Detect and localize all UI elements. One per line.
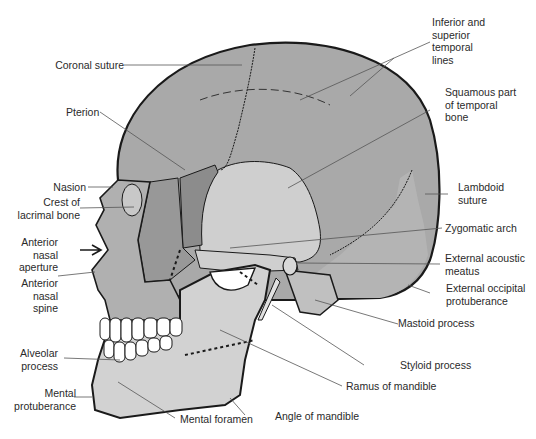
label-coronal-suture: Coronal suture: [28, 59, 124, 72]
label-external-occipital-protuberance: External occipital protuberance: [446, 282, 525, 307]
label-mental-foramen: Mental foramen: [180, 413, 253, 426]
label-alveolar-process: Alveolar process: [4, 347, 58, 372]
nasal-aperture-arrow-icon: [80, 245, 101, 255]
label-external-acoustic-meatus: External acoustic meatus: [445, 252, 525, 277]
label-anterior-nasal-aperture: Anterior nasal aperture: [4, 236, 58, 274]
label-temporal-lines: Inferior and superior temporal lines: [432, 16, 485, 66]
label-squamous-temporal: Squamous part of temporal bone: [445, 86, 516, 124]
label-mastoid-process: Mastoid process: [398, 317, 474, 330]
external-acoustic-meatus: [283, 257, 297, 275]
label-styloid-process: Styloid process: [400, 359, 471, 372]
label-nasion: Nasion: [20, 181, 86, 194]
label-zygomatic-arch: Zygomatic arch: [445, 222, 517, 235]
label-mental-protuberance: Mental protuberance: [4, 387, 76, 412]
orbit: [122, 184, 142, 216]
label-pterion: Pterion: [66, 106, 99, 119]
skull-diagram: Coronal suture Pterion Nasion Crest of l…: [0, 0, 536, 439]
label-angle-of-mandible: Angle of mandible: [275, 410, 359, 423]
label-lambdoid-suture: Lambdoid suture: [458, 181, 504, 206]
label-ramus-of-mandible: Ramus of mandible: [346, 380, 436, 393]
mastoid-process: [285, 270, 338, 315]
label-crest-lacrimal: Crest of lacrimal bone: [4, 196, 80, 221]
label-anterior-nasal-spine: Anterior nasal spine: [4, 277, 58, 315]
